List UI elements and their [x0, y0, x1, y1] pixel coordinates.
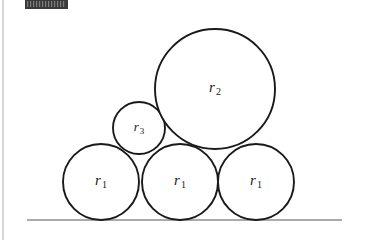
label-r3-sub: 3 — [140, 126, 145, 136]
label-r2-sub: 2 — [216, 86, 221, 97]
label-r1-left-main: r — [95, 172, 101, 188]
label-r1-left-sub: 1 — [102, 179, 107, 190]
redacted-label-bar — [25, 0, 68, 9]
label-r2-main: r — [209, 79, 215, 95]
label-r1-right-main: r — [250, 172, 256, 188]
figure-canvas: r1 r1 r1 r3 r2 — [0, 0, 371, 245]
circle-packing-diagram: r1 r1 r1 r3 r2 — [0, 0, 371, 245]
label-r1-middle-main: r — [174, 172, 180, 188]
label-r1-middle-sub: 1 — [181, 179, 186, 190]
label-r1-right-sub: 1 — [257, 179, 262, 190]
